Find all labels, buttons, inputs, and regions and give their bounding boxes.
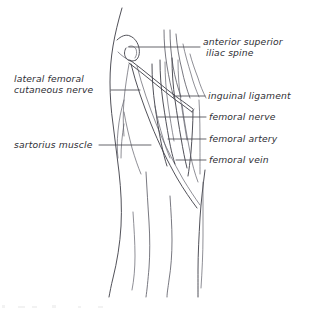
groin-fold-line-5	[190, 54, 206, 98]
label-femoral-nerve: femoral nerve	[209, 111, 276, 122]
lateral-femoral-cutaneous-nerve-branch-2	[124, 112, 141, 174]
lateral-femoral-cutaneous-nerve-branch-3	[121, 124, 124, 158]
label-inguinal-ligament: inguinal ligament	[208, 90, 291, 101]
label-lfcn-line-1: lateral femoral	[14, 73, 84, 84]
label-femoral-vein: femoral vein	[209, 154, 269, 165]
label-lateral-femoral-cutaneous-nerve: lateral femoralcutaneous nerve	[14, 73, 93, 96]
label-lfcn-line-2: cutaneous nerve	[14, 84, 93, 95]
femoral-vein	[172, 58, 187, 168]
asis-prominence	[125, 48, 137, 61]
label-femoral-artery: femoral artery	[209, 133, 277, 144]
label-femoral-nerve-text: femoral nerve	[209, 111, 276, 122]
label-sartorius-muscle: sartorius muscle	[14, 139, 93, 150]
femoral-sheath-lateral-border	[188, 110, 193, 176]
label-asis-line-2: iliac spine	[206, 47, 254, 58]
asis-inner-curve	[128, 46, 137, 58]
lower-thigh-crease-line	[132, 212, 135, 290]
label-inguinal-ligament-text: inguinal ligament	[208, 90, 291, 101]
groin-fold-line-4	[183, 44, 199, 97]
scan-artifact-marks	[0, 301, 150, 311]
label-asis-line-1: anterior superior	[203, 36, 283, 47]
label-sartorius-muscle-text: sartorius muscle	[14, 139, 93, 150]
vastus-medialis-contour	[146, 172, 150, 297]
anatomy-figure: anterior superioriliac spine inguinal li…	[0, 0, 309, 311]
inguinal-ligament-upper-edge	[130, 60, 193, 109]
rectus-femoris-contour	[167, 196, 172, 297]
label-anterior-superior-iliac-spine: anterior superioriliac spine	[203, 36, 283, 59]
lateral-thigh-contour	[109, 8, 122, 297]
adductor-contour-line	[182, 104, 198, 182]
label-femoral-vein-text: femoral vein	[209, 154, 269, 165]
femoral-sheath-medial-border	[199, 100, 200, 174]
label-femoral-artery-text: femoral artery	[209, 133, 277, 144]
